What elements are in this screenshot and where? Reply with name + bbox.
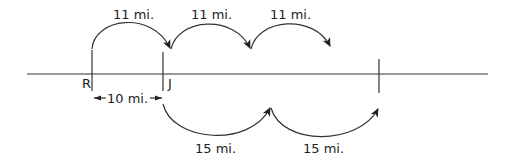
- top-jump-label-2: 11 mi.: [191, 7, 232, 22]
- number-line-diagram: R J 11 mi. 11 mi. 11 mi. 10 mi. 15 mi. 1…: [0, 0, 510, 163]
- top-arc-3: [251, 24, 330, 49]
- top-arc-2: [171, 24, 250, 49]
- distance-label-R-J: 10 mi.: [107, 91, 148, 106]
- top-jump-label-3: 11 mi.: [270, 7, 311, 22]
- label-R: R: [82, 76, 91, 91]
- top-arc-1: [92, 23, 170, 49]
- bottom-jump-label-2: 15 mi.: [303, 141, 344, 156]
- top-jump-label-1: 11 mi.: [113, 7, 154, 22]
- bottom-jump-label-1: 15 mi.: [195, 141, 236, 156]
- label-J: J: [167, 76, 172, 91]
- bottom-arc-2: [271, 108, 378, 137]
- bottom-arc-1: [163, 104, 270, 135]
